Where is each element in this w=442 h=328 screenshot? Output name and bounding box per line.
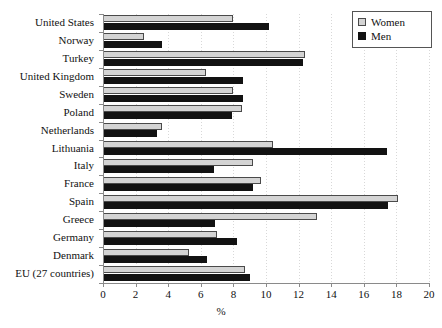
bar-women <box>103 141 273 148</box>
bar-men <box>103 77 243 84</box>
bar-women <box>103 33 144 40</box>
chart-legend: Women Men <box>352 11 432 48</box>
bar-women <box>103 195 398 202</box>
x-tick-label: 2 <box>124 288 148 300</box>
bar-women <box>103 231 217 238</box>
x-axis-title: % <box>0 305 442 317</box>
bar-men <box>103 112 232 119</box>
x-axis-line <box>103 283 430 284</box>
category-label: Sweden <box>0 88 94 100</box>
x-gridline <box>396 14 397 283</box>
x-tick-label: 10 <box>254 288 278 300</box>
bar-men <box>103 256 207 263</box>
y-axis-line <box>103 14 104 283</box>
bar-women <box>103 177 261 184</box>
bar-men <box>103 59 303 66</box>
bar-women <box>103 105 242 112</box>
category-label: Turkey <box>0 52 94 64</box>
bar-men <box>103 202 388 209</box>
bar-women <box>103 123 162 130</box>
legend-swatch-women-icon <box>358 18 366 26</box>
bar-men <box>103 274 250 281</box>
bar-women <box>103 159 253 166</box>
category-label: United States <box>0 16 94 28</box>
x-tick-label: 4 <box>156 288 180 300</box>
category-label: Italy <box>0 159 94 171</box>
category-label: Netherlands <box>0 124 94 136</box>
bar-men <box>103 220 215 227</box>
x-tick-label: 14 <box>319 288 343 300</box>
legend-item-women: Women <box>358 15 426 29</box>
x-tick-label: 12 <box>287 288 311 300</box>
x-tick-label: 6 <box>189 288 213 300</box>
bar-men <box>103 166 214 173</box>
bar-men <box>103 130 157 137</box>
x-tick-label: 18 <box>384 288 408 300</box>
x-tick-label: 8 <box>221 288 245 300</box>
bar-women <box>103 266 245 273</box>
category-label: United Kingdom <box>0 70 94 82</box>
bar-women <box>103 249 189 256</box>
category-label: Poland <box>0 106 94 118</box>
category-label: Greece <box>0 213 94 225</box>
x-tick-label: 20 <box>417 288 441 300</box>
bar-women <box>103 69 206 76</box>
x-tick-label: 0 <box>91 288 115 300</box>
bar-men <box>103 148 387 155</box>
category-label: Germany <box>0 231 94 243</box>
legend-label-women: Women <box>371 15 405 29</box>
bar-women <box>103 15 233 22</box>
bar-women <box>103 213 317 220</box>
category-label: EU (27 countries) <box>0 267 94 279</box>
x-gridline <box>429 14 430 283</box>
bar-chart: 02468101214161820United StatesNorwayTurk… <box>0 0 442 328</box>
category-label: Norway <box>0 34 94 46</box>
category-label: Denmark <box>0 249 94 261</box>
legend-label-men: Men <box>371 29 391 43</box>
category-label: France <box>0 177 94 189</box>
bar-men <box>103 184 253 191</box>
bar-women <box>103 87 233 94</box>
bar-women <box>103 51 305 58</box>
x-tick-label: 16 <box>352 288 376 300</box>
legend-item-men: Men <box>358 29 426 43</box>
category-label: Spain <box>0 195 94 207</box>
category-label: Lithuania <box>0 142 94 154</box>
legend-swatch-men-icon <box>358 32 366 40</box>
bar-men <box>103 238 237 245</box>
bar-men <box>103 23 269 30</box>
bar-men <box>103 41 162 48</box>
bar-men <box>103 95 243 102</box>
